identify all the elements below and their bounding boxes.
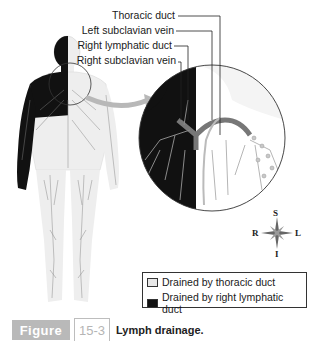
label-thoracic-duct: Thoracic duct	[109, 9, 175, 21]
label-left-subclavian-vein: Left subclavian vein	[70, 24, 174, 36]
figure-tag: Figure	[12, 320, 70, 340]
legend-swatch-dark	[147, 299, 158, 308]
label-right-subclavian-vein: Right subclavian vein	[60, 54, 176, 66]
compass-right: R	[252, 228, 259, 238]
compass-superior: S	[273, 208, 278, 218]
label-right-lymphatic-duct: Right lymphatic duct	[70, 39, 172, 51]
figure-caption: Lymph drainage.	[116, 324, 204, 336]
legend-label: Drained by thoracic duct	[162, 276, 275, 288]
legend-item-thoracic: Drained by thoracic duct	[147, 276, 275, 288]
legend-item-right-lymphatic: Drained by right lymphatic duct	[147, 291, 306, 315]
compass-left: L	[295, 228, 301, 238]
legend: Drained by thoracic duct Drained by righ…	[142, 272, 307, 308]
figure-number: 15-3	[74, 318, 110, 341]
legend-label: Drained by right lymphatic duct	[162, 291, 306, 315]
legend-swatch-light	[147, 278, 158, 287]
compass-inferior: I	[275, 249, 279, 259]
compass-rose	[261, 217, 293, 249]
